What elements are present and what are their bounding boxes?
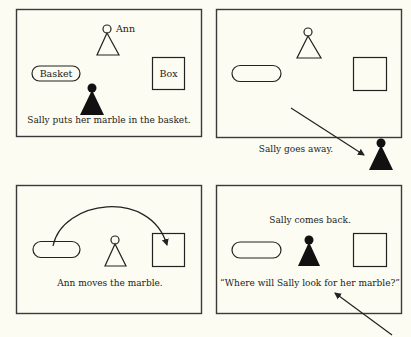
move-marble-arc-arrow-icon [53, 207, 167, 246]
basket-label: Basket [40, 68, 73, 79]
sally-figure-icon [298, 236, 320, 267]
ann-label: Ann [115, 23, 135, 34]
sally-anne-diagram: Ann Basket Box Sally puts her marble in … [0, 0, 411, 337]
panel-4: Sally comes back. “Where will Sally look… [217, 186, 402, 336]
panel-4-caption: Sally comes back. [269, 215, 351, 225]
box-shape [153, 234, 185, 267]
ann-figure-icon [105, 236, 126, 266]
panel-3-caption: Ann moves the marble. [56, 278, 163, 288]
panel-3: Ann moves the marble. [17, 186, 202, 314]
basket-shape [33, 242, 80, 258]
panel-2-caption: Sally goes away. [259, 144, 334, 154]
ann-figure-icon [297, 28, 321, 58]
basket-shape [232, 66, 281, 82]
sally-figure-icon [369, 139, 393, 171]
panel-1-caption: Sally puts her marble in the basket. [27, 115, 190, 125]
panel-1: Ann Basket Box Sally puts her marble in … [17, 10, 202, 137]
sally-figure-icon [80, 84, 104, 116]
basket-shape [232, 242, 281, 258]
box-shape [354, 234, 387, 267]
panel-3-frame [17, 186, 202, 314]
box-label: Box [159, 68, 178, 79]
box-shape [354, 58, 387, 91]
panel-2: Sally goes away. [217, 10, 402, 171]
panel-4-question: “Where will Sally look for her marble?” [220, 278, 400, 288]
